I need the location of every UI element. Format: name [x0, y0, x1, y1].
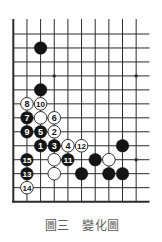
figure-caption: 圖三 變化圖 — [0, 218, 162, 234]
move-number: 8 — [24, 99, 29, 109]
move-number: 3 — [52, 141, 57, 151]
black-stone — [116, 167, 129, 180]
black-stone — [89, 153, 102, 166]
black-stone-icon — [34, 42, 47, 55]
move-number: 2 — [52, 127, 57, 137]
black-stone — [75, 167, 88, 180]
move-number: 10 — [36, 100, 46, 109]
white-stone-move-12: 12 — [75, 139, 88, 152]
white-stone-icon — [34, 112, 47, 125]
black-stone-move-9: 9 — [21, 125, 34, 138]
black-stone-icon — [103, 167, 116, 180]
black-stone-move-5: 5 — [34, 125, 47, 138]
black-stone-icon — [116, 167, 129, 180]
black-stone — [34, 84, 47, 97]
white-stone-move-4: 4 — [62, 139, 75, 152]
move-number: 6 — [52, 113, 57, 123]
black-stone-icon — [75, 167, 88, 180]
go-board-diagram: 810769521341215111314 — [0, 0, 162, 212]
move-number: 1 — [38, 141, 43, 151]
white-stone — [48, 153, 61, 166]
black-stone-move-15: 15 — [21, 153, 34, 166]
black-stone-move-3: 3 — [48, 139, 61, 152]
black-stone-move-13: 13 — [21, 167, 34, 180]
white-stone-icon — [103, 153, 116, 166]
star-point-icon — [134, 74, 137, 77]
black-stone-icon — [89, 153, 102, 166]
move-number: 4 — [65, 141, 70, 151]
move-number: 13 — [22, 170, 32, 179]
white-stone — [34, 112, 47, 125]
white-stone-move-10: 10 — [34, 98, 47, 111]
black-stone-move-7: 7 — [21, 112, 34, 125]
star-point-icon — [53, 74, 56, 77]
move-number: 14 — [22, 184, 32, 193]
white-stone-move-8: 8 — [21, 98, 34, 111]
move-number: 15 — [22, 156, 32, 165]
black-stone-move-1: 1 — [34, 139, 47, 152]
white-stone-move-14: 14 — [21, 181, 34, 194]
white-stone — [103, 153, 116, 166]
move-number: 7 — [24, 113, 29, 123]
white-stone-move-6: 6 — [48, 112, 61, 125]
black-stone — [116, 139, 129, 152]
move-number: 9 — [24, 127, 29, 137]
white-stone — [48, 167, 61, 180]
white-stone-icon — [48, 167, 61, 180]
black-stone-icon — [34, 84, 47, 97]
black-stone — [103, 167, 116, 180]
black-stone-icon — [116, 139, 129, 152]
star-point-icon — [134, 158, 137, 161]
move-number: 12 — [77, 142, 87, 151]
white-stone-move-2: 2 — [48, 125, 61, 138]
move-number: 5 — [38, 127, 43, 137]
white-stone-icon — [48, 153, 61, 166]
black-stone — [34, 42, 47, 55]
move-number: 11 — [63, 156, 73, 165]
black-stone-move-11: 11 — [62, 153, 75, 166]
